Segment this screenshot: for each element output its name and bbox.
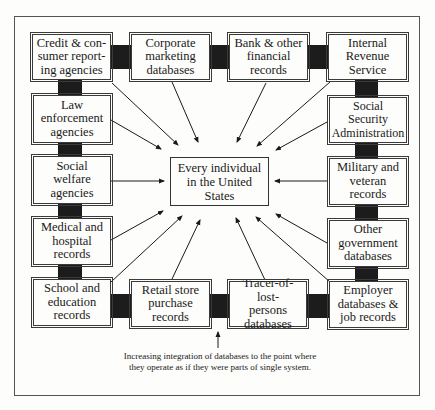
arrow-irs: [257, 82, 330, 146]
arrow-tracer: [236, 218, 265, 280]
center-node-individual: Every individual in the United States: [170, 157, 269, 206]
arrow-bank: [237, 83, 266, 142]
node-medical-hospital: Medical and hospital records: [33, 218, 111, 265]
arrow-credit: [112, 83, 178, 145]
node-irs: Internal Revenue Service: [328, 34, 407, 80]
integration-caption: Increasing integration of databases to t…: [100, 351, 340, 373]
node-other-government: Other government databases: [329, 220, 407, 267]
node-school-education: School and education records: [33, 279, 111, 326]
arrow-othergov: [276, 214, 327, 243]
arrow-corporate: [172, 82, 198, 142]
node-law-enforcement: Law enforcement agencies: [33, 95, 111, 143]
node-retail-purchase: Retail store purchase records: [131, 281, 210, 327]
arrow-medical: [111, 211, 163, 240]
node-social-security: Social Security Administration: [329, 97, 407, 143]
node-social-welfare: Social welfare agencies: [33, 156, 111, 204]
arrow-law: [111, 120, 161, 149]
node-corporate-marketing: Corporate marketing databases: [131, 34, 210, 80]
node-tracer-lost-persons: Tracer-of-lost- persons databases: [229, 281, 307, 327]
arrow-employer: [256, 217, 330, 282]
node-employer-job: Employer databases & job records: [329, 281, 407, 328]
arrow-retail: [172, 220, 200, 279]
node-bank-financial: Bank & other financial records: [229, 34, 308, 80]
arrow-ssa: [276, 122, 327, 150]
node-credit-agencies: Credit & con- sumer report- ing agencies: [32, 34, 111, 80]
node-military-veteran: Military and veteran records: [329, 158, 407, 205]
arrow-school: [111, 216, 182, 282]
